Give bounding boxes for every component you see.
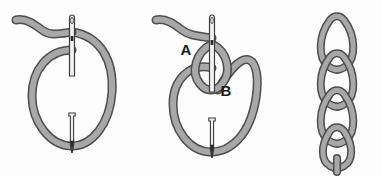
needle-upper-shaft <box>210 15 215 92</box>
diagram-canvas: A B <box>0 0 381 176</box>
callout-label-a: A <box>181 41 192 58</box>
needle-eye <box>211 17 214 23</box>
needle-thread-knot <box>71 36 74 41</box>
chain-stitch-diagram: A B <box>0 0 381 176</box>
needle-thread-knot <box>211 40 214 45</box>
callout-label-b: B <box>221 82 232 99</box>
needle-upper-shaft <box>70 15 75 76</box>
needle-eye <box>71 17 74 23</box>
